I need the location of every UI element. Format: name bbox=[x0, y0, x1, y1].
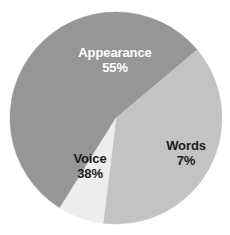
slice-label-voice: Voice 38% bbox=[36, 151, 144, 182]
slice-label-words: Words 7% bbox=[148, 138, 224, 169]
slice-label-appearance: Appearance 55% bbox=[0, 45, 230, 76]
slice-label-voice-name: Voice bbox=[36, 151, 144, 166]
slice-label-appearance-name: Appearance bbox=[0, 45, 230, 60]
slice-label-words-value: 7% bbox=[148, 153, 224, 168]
pie-chart-svg bbox=[0, 0, 230, 235]
slice-label-appearance-value: 55% bbox=[0, 60, 230, 75]
slice-label-voice-value: 38% bbox=[36, 166, 144, 181]
pie-chart: Appearance 55% Voice 38% Words 7% bbox=[0, 0, 230, 235]
slice-label-words-name: Words bbox=[148, 138, 224, 153]
pie-slices-group bbox=[10, 12, 222, 224]
